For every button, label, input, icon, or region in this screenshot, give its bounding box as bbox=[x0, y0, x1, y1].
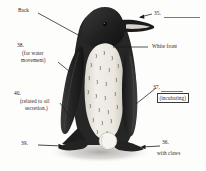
penguin-anatomy-figure: Back 38. (for water movement) 40. (relat… bbox=[0, 0, 206, 171]
right-flipper bbox=[122, 47, 137, 137]
label-38-number: 38. bbox=[17, 42, 24, 49]
label-37-number: 37. bbox=[153, 84, 160, 91]
label-39-number: 39. bbox=[21, 140, 28, 147]
penguin-eye bbox=[103, 22, 107, 26]
label-37-hint: (incubating) bbox=[157, 93, 189, 103]
penguin-head bbox=[82, 7, 124, 49]
arrow-35-icon bbox=[139, 14, 152, 19]
label-40-number: 40. bbox=[14, 90, 21, 97]
white-front bbox=[85, 43, 125, 139]
answer-blank-35[interactable] bbox=[164, 17, 200, 18]
answer-blank-37[interactable] bbox=[161, 91, 183, 92]
eye-highlight bbox=[104, 23, 105, 24]
label-40-hint-line1: (related to oil bbox=[20, 98, 49, 105]
label-white-front: White front bbox=[152, 43, 177, 50]
leader-line-back bbox=[38, 13, 80, 36]
leader-line-38 bbox=[58, 62, 70, 72]
label-with-claws: with claws bbox=[157, 150, 180, 157]
label-36-number: 36. bbox=[162, 139, 169, 146]
label-35-number: 35. bbox=[154, 10, 161, 17]
penguin-illustration bbox=[0, 0, 206, 171]
arrow-39-icon bbox=[38, 144, 64, 148]
label-38-hint-line2: movement) bbox=[21, 57, 46, 64]
egg bbox=[99, 133, 117, 150]
label-40-hint-line2: secretion.) bbox=[25, 105, 48, 112]
label-back: Back bbox=[18, 7, 29, 14]
label-38-hint-line1: (for water bbox=[22, 50, 44, 57]
